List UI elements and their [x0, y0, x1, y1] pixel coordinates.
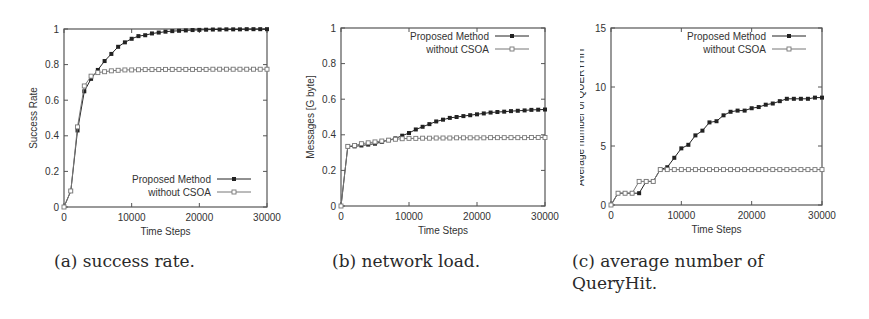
- data-point: [536, 135, 540, 139]
- data-point: [231, 27, 235, 31]
- data-point: [69, 189, 73, 193]
- legend-label-without-csoa: without CSOA: [147, 187, 211, 198]
- data-point: [509, 136, 513, 140]
- data-point: [427, 122, 431, 126]
- data-point: [455, 115, 459, 119]
- legend-marker-filled-square: [787, 34, 791, 38]
- legend-label-proposed-method: Proposed Method: [410, 31, 489, 42]
- chart-panel-c: 0510150100002000030000Time StepsAverage …: [580, 0, 869, 319]
- caption-c: (c) average number of QueryHit.: [572, 250, 802, 294]
- data-point: [359, 142, 363, 146]
- data-point: [238, 67, 242, 71]
- data-point: [516, 109, 520, 113]
- data-point: [799, 97, 803, 101]
- data-point: [177, 29, 181, 33]
- data-point: [792, 97, 796, 101]
- data-point: [820, 96, 824, 100]
- data-point: [170, 29, 174, 33]
- data-point: [764, 103, 768, 107]
- legend: Proposed Methodwithout CSOA: [132, 174, 251, 198]
- data-point: [672, 168, 676, 172]
- data-point: [197, 28, 201, 32]
- x-tick-label: 20000: [185, 212, 213, 223]
- data-point: [265, 27, 269, 31]
- data-point: [116, 68, 120, 72]
- data-point: [489, 136, 493, 140]
- data-point: [150, 68, 154, 72]
- legend-label-without-csoa: without CSOA: [702, 44, 766, 55]
- x-tick-label: 0: [61, 212, 67, 223]
- data-point: [96, 71, 100, 75]
- data-point: [251, 27, 255, 31]
- data-point: [813, 168, 817, 172]
- legend-label-without-csoa: without CSOA: [425, 44, 489, 55]
- plot-frame: [341, 28, 545, 206]
- data-point: [482, 111, 486, 115]
- series-proposed-method: [339, 108, 547, 208]
- data-point: [764, 168, 768, 172]
- data-point: [700, 168, 704, 172]
- data-point: [123, 40, 127, 44]
- y-tick-label: 0.2: [45, 166, 59, 177]
- data-point: [109, 52, 113, 56]
- series-without-csoa: [609, 168, 824, 207]
- data-point: [177, 67, 181, 71]
- data-point: [799, 168, 803, 172]
- data-point: [245, 27, 249, 31]
- data-point: [729, 168, 733, 172]
- data-point: [785, 97, 789, 101]
- data-point: [806, 97, 810, 101]
- data-point: [509, 109, 513, 113]
- data-point: [461, 136, 465, 140]
- data-point: [813, 96, 817, 100]
- y-tick-label: 0.6: [322, 94, 336, 105]
- data-point: [373, 140, 377, 144]
- data-point: [468, 136, 472, 140]
- data-point: [700, 129, 704, 133]
- data-point: [197, 67, 201, 71]
- data-point: [218, 67, 222, 71]
- data-point: [637, 179, 641, 183]
- data-point: [679, 146, 683, 150]
- data-point: [421, 125, 425, 129]
- caption-a: (a) success rate.: [54, 250, 195, 272]
- data-point: [715, 168, 719, 172]
- data-point: [103, 70, 107, 74]
- data-point: [421, 136, 425, 140]
- data-point: [523, 108, 527, 112]
- data-point: [707, 120, 711, 124]
- data-point: [475, 112, 479, 116]
- data-point: [211, 67, 215, 71]
- data-point: [707, 168, 711, 172]
- data-point: [393, 137, 397, 141]
- legend: Proposed Methodwithout CSOA: [410, 31, 529, 55]
- y-tick-label: 1: [53, 24, 59, 35]
- data-point: [771, 168, 775, 172]
- data-point: [495, 136, 499, 140]
- data-point: [679, 168, 683, 172]
- x-tick-label: 10000: [667, 210, 695, 221]
- x-tick-label: 10000: [395, 211, 423, 222]
- data-point: [495, 110, 499, 114]
- data-point: [346, 144, 350, 148]
- data-point: [502, 136, 506, 140]
- chart-panel-a: 00.20.40.60.810100002000030000Time Steps…: [0, 0, 290, 319]
- y-tick-label: 0.6: [45, 95, 59, 106]
- data-point: [143, 68, 147, 72]
- data-point: [468, 113, 472, 117]
- data-point: [224, 67, 228, 71]
- data-point: [651, 179, 655, 183]
- data-point: [164, 30, 168, 34]
- data-point: [529, 135, 533, 139]
- data-point: [482, 136, 486, 140]
- data-point: [736, 168, 740, 172]
- data-point: [644, 179, 648, 183]
- chart-network-load: 00.20.40.60.810100002000030000Time Steps…: [290, 0, 580, 250]
- chart-average-queryhit: 0510150100002000030000Time StepsAverage …: [580, 0, 869, 250]
- data-point: [170, 67, 174, 71]
- data-point: [630, 191, 634, 195]
- x-tick-label: 30000: [253, 212, 281, 223]
- data-point: [157, 31, 161, 35]
- legend: Proposed Methodwithout CSOA: [687, 31, 806, 55]
- data-point: [353, 143, 357, 147]
